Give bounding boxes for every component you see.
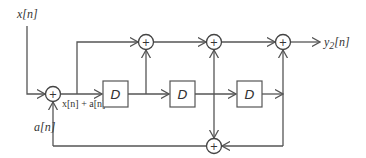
plus-icon: + bbox=[210, 37, 218, 48]
top-adder-1: + bbox=[139, 35, 154, 50]
delay-label: D bbox=[177, 87, 187, 102]
delay-d3: D bbox=[237, 81, 262, 107]
plus-icon: + bbox=[49, 89, 57, 100]
top-adder-2: + bbox=[207, 35, 222, 50]
delay-label: D bbox=[110, 87, 120, 102]
sum-label: x[n] + a[n] bbox=[62, 98, 105, 109]
bottom-adder: + bbox=[207, 139, 222, 154]
input-label: x[n] bbox=[16, 7, 38, 21]
feedback-label: a[n] bbox=[34, 120, 56, 134]
delay-label: D bbox=[244, 87, 254, 102]
plus-icon: + bbox=[210, 141, 218, 152]
delay-d2: D bbox=[170, 81, 195, 107]
plus-icon: + bbox=[279, 37, 287, 48]
block-diagram: x[n] a[n] + x[n] + a[n] D D D bbox=[0, 0, 366, 158]
plus-icon: + bbox=[142, 37, 150, 48]
delay-d1: D bbox=[103, 81, 128, 107]
input-adder: + bbox=[46, 87, 61, 102]
top-adder-3: + bbox=[276, 35, 291, 50]
input-wire bbox=[27, 26, 45, 94]
output-label: y2[n] bbox=[323, 35, 350, 51]
